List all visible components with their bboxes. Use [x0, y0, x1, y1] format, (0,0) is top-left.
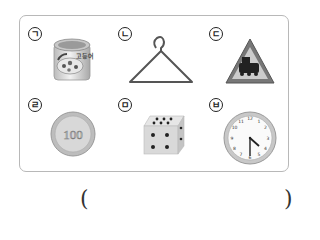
answer-blank[interactable]	[95, 188, 280, 214]
coin-100-won-icon: 100	[49, 110, 97, 158]
item-label-f: ㅂ	[209, 98, 223, 112]
svg-text:3: 3	[267, 136, 270, 141]
item-label-c: ㄷ	[209, 27, 223, 41]
railroad-crossing-sign-icon	[224, 37, 276, 85]
svg-text:5: 5	[258, 152, 261, 157]
hanger-icon	[126, 34, 196, 86]
canned-food-icon: 고등어	[50, 36, 96, 84]
svg-text:12: 12	[247, 116, 253, 121]
wall-clock-icon: 1212345 67891011	[222, 110, 278, 166]
item-label-e: ㅁ	[118, 98, 132, 112]
svg-text:고등어: 고등어	[76, 52, 94, 60]
svg-text:1: 1	[258, 119, 261, 124]
svg-text:4: 4	[264, 146, 267, 151]
svg-text:7: 7	[240, 152, 243, 157]
svg-text:11: 11	[238, 119, 244, 124]
item-label-a: ㄱ	[28, 27, 42, 41]
item-label-d: ㄹ	[28, 98, 42, 112]
dice-icon	[140, 114, 186, 156]
answer-open-paren: (	[80, 186, 89, 211]
svg-text:8: 8	[233, 146, 236, 151]
svg-text:2: 2	[264, 125, 267, 130]
svg-text:9: 9	[231, 136, 234, 141]
svg-text:10: 10	[232, 125, 238, 130]
answer-close-paren: )	[284, 186, 293, 211]
svg-text:100: 100	[63, 127, 83, 142]
